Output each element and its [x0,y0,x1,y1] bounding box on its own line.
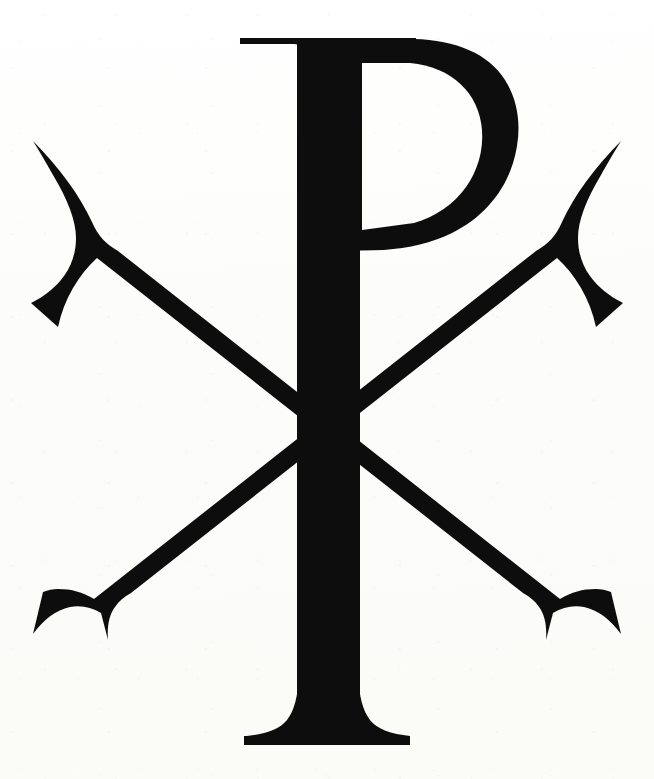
caption-strip [0,751,654,779]
rho-bowl [340,39,519,251]
chi-rho-glyph: Chi Rho monogram symbol [0,0,654,779]
rho-foot-serif [244,650,410,745]
image-canvas: Chi Rho monogram symbol [0,0,654,779]
